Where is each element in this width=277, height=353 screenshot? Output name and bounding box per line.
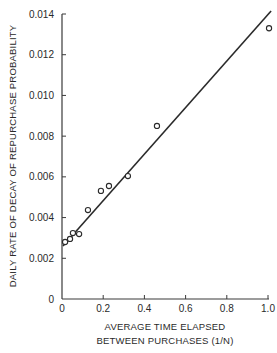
y-tick-label: 0.014 bbox=[29, 9, 54, 20]
x-tick-label: 0.8 bbox=[220, 303, 234, 314]
y-tick-label: 0.008 bbox=[29, 131, 54, 142]
x-axis-title: AVERAGE TIME ELAPSED BETWEEN PURCHASES (… bbox=[96, 321, 233, 346]
data-point-circle bbox=[266, 26, 271, 31]
y-tick-label: 0.002 bbox=[29, 253, 54, 264]
x-axis-ticks: 00.20.40.60.81.0 bbox=[59, 295, 275, 314]
data-point-circle bbox=[67, 236, 72, 241]
x-axis-title-line-1: AVERAGE TIME ELAPSED bbox=[105, 321, 226, 332]
y-axis-ticks: 00.0020.0040.0060.0080.0100.0120.014 bbox=[29, 9, 66, 305]
data-point-circle bbox=[98, 188, 103, 193]
y-tick-label: 0.010 bbox=[29, 90, 54, 101]
regression-line bbox=[63, 11, 271, 246]
fitted-line bbox=[63, 11, 271, 246]
y-tick-label: 0.012 bbox=[29, 49, 54, 60]
y-axis-title: DAILY RATE OF DECAY OF REPURCHASE PROBAB… bbox=[7, 24, 18, 287]
y-tick-label: 0.004 bbox=[29, 212, 54, 223]
x-tick-label: 1.0 bbox=[261, 303, 275, 314]
y-axis-title-text: DAILY RATE OF DECAY OF REPURCHASE PROBAB… bbox=[7, 24, 18, 287]
x-tick-label: 0.4 bbox=[137, 303, 151, 314]
axes bbox=[62, 14, 269, 299]
x-tick-label: 0.2 bbox=[96, 303, 110, 314]
data-point-circle bbox=[85, 207, 90, 212]
x-axis-title-line-2: BETWEEN PURCHASES (1/N) bbox=[96, 335, 233, 346]
scatter-chart: DAILY RATE OF DECAY OF REPURCHASE PROBAB… bbox=[0, 0, 277, 353]
y-tick-label: 0.006 bbox=[29, 171, 54, 182]
x-tick-label: 0.6 bbox=[179, 303, 193, 314]
y-tick-label: 0 bbox=[48, 294, 54, 305]
data-point-circle bbox=[62, 239, 67, 244]
data-point-circle bbox=[125, 173, 130, 178]
x-tick-label: 0 bbox=[59, 303, 65, 314]
data-point-circle bbox=[154, 123, 159, 128]
data-point-circle bbox=[106, 183, 111, 188]
data-point-circle bbox=[76, 231, 81, 236]
data-point-circle bbox=[70, 230, 75, 235]
